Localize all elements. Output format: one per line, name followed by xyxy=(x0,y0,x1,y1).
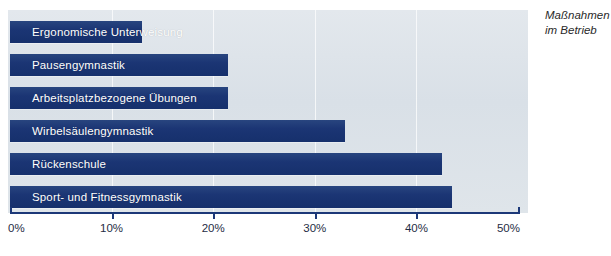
bar-category-label: Sport- und Fitnessgymnastik xyxy=(32,186,182,208)
plot-area: Ergonomische UnterweisungPausengymnastik… xyxy=(8,10,528,213)
chart-annotation: Maßnahmen im Betrieb xyxy=(545,8,609,38)
bar-row: Wirbelsäulengymnastik xyxy=(10,120,518,142)
bar-category-label: Rückenschule xyxy=(32,153,106,175)
x-axis-line xyxy=(10,212,518,214)
bar-row: Arbeitsplatzbezogene Übungen xyxy=(10,87,518,109)
bar-row: Sport- und Fitnessgymnastik xyxy=(10,186,518,208)
x-axis-tick xyxy=(213,212,215,219)
annotation-line-1: Maßnahmen xyxy=(545,8,609,23)
x-axis-tick xyxy=(10,207,12,214)
x-axis-tick xyxy=(518,207,520,214)
bar-category-label: Wirbelsäulengymnastik xyxy=(32,120,153,142)
x-axis-tick-label: 40% xyxy=(405,222,428,234)
x-axis-tick xyxy=(112,212,114,219)
bar-category-label: Arbeitsplatzbezogene Übungen xyxy=(32,87,197,109)
bar-category-label: Ergonomische Unterweisung xyxy=(32,21,183,43)
x-axis-tick-label: 30% xyxy=(303,222,326,234)
x-axis: 0%10%20%30%40%50% xyxy=(10,212,518,213)
x-axis-tick-label: 0% xyxy=(8,222,25,234)
x-axis-tick-label: 10% xyxy=(100,222,123,234)
x-axis-tick-label: 20% xyxy=(202,222,225,234)
bar-row: Rückenschule xyxy=(10,153,518,175)
bars-layer: Ergonomische UnterweisungPausengymnastik… xyxy=(8,10,528,213)
bar-row: Pausengymnastik xyxy=(10,54,518,76)
x-axis-tick-label: 50% xyxy=(497,222,520,234)
bar-row: Ergonomische Unterweisung xyxy=(10,21,518,43)
annotation-line-2: im Betrieb xyxy=(545,23,609,38)
x-axis-tick xyxy=(315,212,317,219)
bar-category-label: Pausengymnastik xyxy=(32,54,125,76)
horizontal-bar-chart: Ergonomische UnterweisungPausengymnastik… xyxy=(0,0,611,256)
x-axis-tick xyxy=(416,212,418,219)
